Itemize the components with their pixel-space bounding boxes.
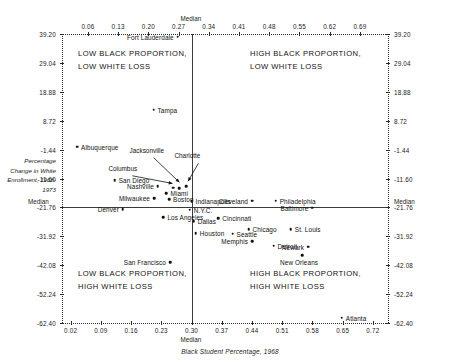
data-point	[231, 232, 234, 235]
tick-mark-bottom	[71, 321, 72, 325]
tick-label-right: -11.60	[394, 175, 413, 182]
scatter-chart: 0.060.130.200.270.340.410.480.550.620.69…	[0, 0, 460, 363]
data-point-label: Atlanta	[346, 314, 367, 321]
tick-label-bottom: 0.44	[245, 327, 258, 334]
data-point	[290, 228, 293, 231]
data-point	[301, 254, 304, 257]
quadrant-caption-top-right: HIGH BLACK PROPORTION, LOW WHITE LOSS	[250, 48, 361, 73]
tick-mark-right	[386, 236, 390, 237]
tick-mark-left	[60, 92, 64, 93]
tick-label-right: 29.04	[394, 59, 411, 66]
y-axis-title: Percentage Change in White Enrollment, 1…	[4, 156, 56, 194]
tick-label-bottom: 0.09	[94, 327, 107, 334]
tick-mark-right	[386, 265, 390, 266]
data-point-label: Houston	[200, 230, 225, 237]
data-point	[341, 317, 344, 320]
data-point	[172, 187, 175, 190]
data-point	[76, 145, 79, 148]
annotation-label: Charlotte	[174, 152, 200, 159]
tick-mark-top	[299, 32, 300, 36]
tick-mark-right	[386, 323, 390, 324]
data-point-label: Nashville	[127, 183, 154, 190]
tick-mark-left	[60, 294, 64, 295]
data-point	[274, 199, 277, 202]
data-point	[176, 36, 179, 39]
tick-label-left: 39.20	[39, 31, 56, 38]
tick-label-right: -52.24	[394, 291, 413, 298]
tick-mark-left	[60, 265, 64, 266]
tick-label-left: 29.04	[39, 59, 56, 66]
tick-mark-bottom	[373, 321, 374, 325]
median-label-right: Median	[394, 198, 415, 205]
tick-label-bottom: 0.72	[366, 327, 379, 334]
tick-label-top: 0.55	[293, 23, 306, 30]
data-point	[272, 244, 275, 247]
data-point	[113, 179, 116, 182]
data-point	[152, 108, 155, 111]
data-point-label: Fort Lauderdale	[127, 33, 174, 40]
tick-label-left: -62.40	[37, 320, 56, 327]
tick-label-bottom: 0.02	[64, 327, 77, 334]
tick-mark-top	[330, 32, 331, 36]
tick-label-bottom: 0.37	[215, 327, 228, 334]
tick-mark-top	[239, 32, 240, 36]
tick-mark-bottom	[343, 321, 344, 325]
tick-mark-left	[60, 63, 64, 64]
tick-label-top: 0.20	[142, 23, 155, 30]
data-point	[192, 220, 195, 223]
data-point-label: Seattle	[237, 230, 258, 237]
x-axis-title: Black Student Percentage, 1968	[0, 348, 460, 355]
data-point-label: Denver	[98, 206, 119, 213]
data-point-label: San Francisco	[124, 259, 166, 266]
annotation-arrows	[0, 0, 460, 363]
tick-mark-top	[209, 32, 210, 36]
data-point-label: Cincinnati	[222, 215, 251, 222]
median-line-vertical	[192, 34, 193, 323]
tick-label-top: 0.27	[172, 23, 185, 30]
data-point	[251, 199, 254, 202]
tick-mark-bottom	[282, 321, 283, 325]
tick-mark-right	[386, 63, 390, 64]
tick-label-right: -62.40	[394, 320, 413, 327]
tick-mark-right	[386, 150, 390, 151]
tick-mark-left	[60, 207, 64, 208]
data-point	[189, 208, 192, 211]
tick-mark-top	[88, 32, 89, 36]
tick-mark-left	[60, 34, 64, 35]
tick-label-top: 0.62	[323, 23, 336, 30]
tick-label-right: -31.92	[394, 233, 413, 240]
data-point	[190, 200, 193, 203]
tick-mark-left	[60, 236, 64, 237]
tick-label-left: -31.92	[37, 233, 56, 240]
annotation-label: Jacksonville	[130, 147, 164, 154]
tick-label-bottom: 0.30	[185, 327, 198, 334]
median-label-left: Median	[28, 198, 49, 205]
tick-label-right: 39.20	[394, 31, 411, 38]
data-point	[165, 192, 168, 195]
data-point	[162, 216, 165, 219]
data-point	[122, 208, 125, 211]
tick-label-left: 18.88	[39, 88, 56, 95]
median-label-bottom: Median	[181, 336, 202, 343]
tick-label-bottom: 0.51	[276, 327, 289, 334]
tick-mark-right	[386, 179, 390, 180]
data-point	[195, 232, 198, 235]
tick-label-bottom: 0.23	[155, 327, 168, 334]
quadrant-caption-top-left: LOW BLACK PROPORTION, LOW WHITE LOSS	[78, 48, 187, 73]
tick-label-right: 18.88	[394, 88, 411, 95]
tick-label-left: 8.72	[43, 117, 56, 124]
axis-line-bottom	[62, 323, 388, 324]
tick-mark-top	[118, 32, 119, 36]
data-point-label: Milwaukee	[119, 195, 150, 202]
tick-mark-right	[386, 294, 390, 295]
tick-mark-right	[386, 121, 390, 122]
tick-mark-bottom	[101, 321, 102, 325]
data-point-label: Philadelphia	[280, 197, 316, 204]
data-point	[168, 198, 171, 201]
data-point	[153, 197, 156, 200]
tick-mark-left	[60, 150, 64, 151]
tick-mark-bottom	[252, 321, 253, 325]
tick-label-bottom: 0.16	[125, 327, 138, 334]
tick-mark-bottom	[131, 321, 132, 325]
tick-label-bottom: 0.65	[336, 327, 349, 334]
